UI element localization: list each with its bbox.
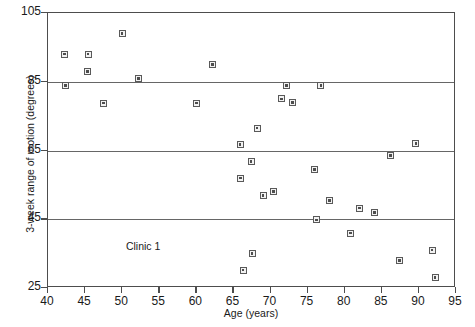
clinic-annotation: Clinic 1 <box>126 240 160 252</box>
y-tick-label-45: 45 <box>0 210 41 224</box>
data-point <box>135 75 142 82</box>
x-tick-80 <box>344 287 345 293</box>
data-point <box>283 82 290 89</box>
data-point <box>387 152 394 159</box>
gridline-y-85 <box>48 82 454 83</box>
y-tick-label-85: 85 <box>0 73 41 87</box>
plot-area: Clinic 1 <box>47 12 455 287</box>
x-tick-label-90: 90 <box>398 294 438 308</box>
x-tick-85 <box>381 287 382 293</box>
data-point <box>326 197 333 204</box>
x-tick-90 <box>418 287 419 293</box>
x-tick-label-60: 60 <box>175 294 215 308</box>
x-tick-label-40: 40 <box>27 294 67 308</box>
data-point <box>209 61 216 68</box>
data-point <box>371 209 378 216</box>
x-tick-45 <box>84 287 85 293</box>
data-point <box>347 230 354 237</box>
data-point <box>270 188 277 195</box>
x-tick-40 <box>47 287 48 293</box>
data-point <box>240 267 247 274</box>
data-point <box>249 250 256 257</box>
data-point <box>193 100 200 107</box>
y-tick-label-105: 105 <box>0 4 41 18</box>
data-point <box>237 141 244 148</box>
data-point <box>289 99 296 106</box>
x-tick-label-65: 65 <box>212 294 252 308</box>
x-tick-70 <box>270 287 271 293</box>
data-point <box>61 51 68 58</box>
x-tick-50 <box>121 287 122 293</box>
data-point <box>432 274 439 281</box>
x-tick-65 <box>232 287 233 293</box>
data-point <box>311 166 318 173</box>
y-tick-label-25: 25 <box>0 279 41 293</box>
x-tick-label-80: 80 <box>324 294 364 308</box>
x-tick-55 <box>158 287 159 293</box>
x-tick-label-45: 45 <box>64 294 104 308</box>
data-point <box>254 125 261 132</box>
y-tick-label-65: 65 <box>0 142 41 156</box>
x-tick-label-95: 95 <box>435 294 475 308</box>
x-axis-label: Age (years) <box>47 307 455 319</box>
data-point <box>317 82 324 89</box>
x-tick-label-75: 75 <box>287 294 327 308</box>
data-point <box>248 158 255 165</box>
x-tick-label-85: 85 <box>361 294 401 308</box>
x-tick-label-50: 50 <box>101 294 141 308</box>
data-point <box>356 205 363 212</box>
data-point <box>313 216 320 223</box>
x-tick-95 <box>455 287 456 293</box>
scatter-chart-figure: 3-week range of motion (degrees) Age (ye… <box>0 0 475 327</box>
data-point <box>119 30 126 37</box>
data-point <box>85 51 92 58</box>
x-tick-75 <box>307 287 308 293</box>
x-tick-label-55: 55 <box>138 294 178 308</box>
data-point <box>429 247 436 254</box>
data-point <box>260 192 267 199</box>
x-tick-label-70: 70 <box>250 294 290 308</box>
data-point <box>237 175 244 182</box>
data-point <box>84 68 91 75</box>
data-point <box>412 140 419 147</box>
data-point <box>278 95 285 102</box>
gridline-y-45 <box>48 219 454 220</box>
x-tick-60 <box>195 287 196 293</box>
data-point <box>100 100 107 107</box>
data-point <box>62 82 69 89</box>
data-point <box>396 257 403 264</box>
